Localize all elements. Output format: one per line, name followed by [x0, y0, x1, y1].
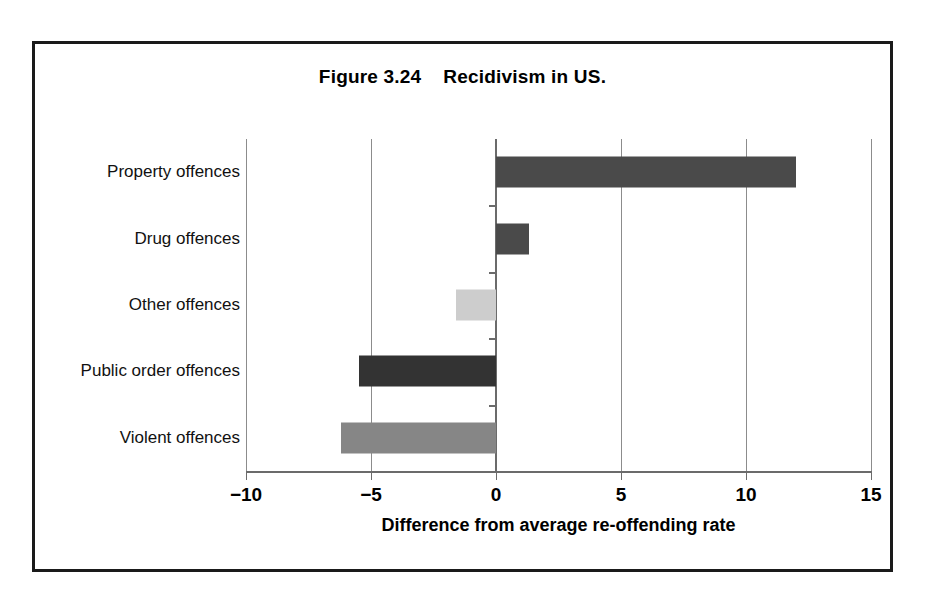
x-tick — [371, 471, 372, 480]
x-tick-label: −5 — [360, 484, 382, 506]
category-label: Other offences — [129, 295, 240, 315]
x-tick — [746, 471, 747, 480]
zero-axis-tick — [489, 272, 497, 274]
chart-title: Figure 3.24 Recidivism in US. — [35, 66, 890, 88]
x-axis-line — [246, 471, 871, 473]
bar — [341, 422, 496, 453]
bar-row: Other offences — [246, 272, 871, 338]
zero-axis-tick — [489, 338, 497, 340]
x-tick-label: 10 — [735, 484, 756, 506]
zero-axis-tick — [489, 405, 497, 407]
bar-row: Violent offences — [246, 405, 871, 471]
category-label: Public order offences — [81, 361, 240, 381]
plot-area: Property offencesDrug offencesOther offe… — [246, 139, 871, 471]
category-label: Drug offences — [134, 229, 240, 249]
x-tick — [621, 471, 622, 480]
x-tick-label: 5 — [616, 484, 627, 506]
x-tick-label: −10 — [230, 484, 262, 506]
zero-axis-tick — [489, 205, 497, 207]
bar — [456, 289, 496, 320]
figure-frame: Figure 3.24 Recidivism in US. Property o… — [32, 41, 893, 572]
bar-row: Public order offences — [246, 338, 871, 404]
gridline-15 — [871, 139, 872, 471]
x-axis-title: Difference from average re-offending rat… — [246, 515, 871, 536]
bar-row: Drug offences — [246, 205, 871, 271]
category-label: Property offences — [107, 162, 240, 182]
x-tick — [496, 471, 497, 480]
category-label: Violent offences — [120, 428, 240, 448]
x-tick-label: 0 — [491, 484, 502, 506]
x-tick — [871, 471, 872, 480]
bar-row: Property offences — [246, 139, 871, 205]
x-tick-label: 15 — [860, 484, 881, 506]
bar — [496, 157, 796, 188]
bar — [359, 356, 497, 387]
x-tick — [246, 471, 247, 480]
bar — [496, 223, 529, 254]
